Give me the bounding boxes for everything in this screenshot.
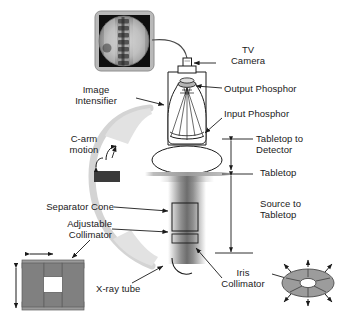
label-c-arm-motion: C-arm motion	[54, 133, 114, 155]
label-source-to-tabletop: Source to Tabletop	[260, 198, 340, 220]
diagram-graphics	[0, 0, 343, 324]
c-arm-mount-block	[94, 171, 120, 182]
tabletop-surface	[145, 172, 230, 176]
output-phosphor	[178, 78, 196, 88]
adjustable-collimator-inset	[16, 254, 84, 310]
label-tv-camera: TV Camera	[218, 44, 278, 66]
dimension-source-to-tabletop	[215, 174, 253, 253]
patient-cross-section	[152, 146, 222, 174]
iris-collimator-inset	[282, 260, 334, 306]
c-arm	[92, 108, 158, 266]
label-input-phosphor: Input Phosphor	[224, 108, 340, 119]
label-image-intensifier: Image Intensifier	[56, 84, 136, 106]
dimension-tabletop-to-detector	[222, 139, 253, 170]
monitor	[95, 11, 154, 71]
xray-beam-column	[168, 174, 206, 264]
label-separator-cone: Separator Cone	[10, 201, 114, 212]
label-tabletop: Tabletop	[260, 167, 340, 178]
label-adjustable-collimator: Adjustable Collimator	[18, 218, 112, 240]
label-iris-collimator: Iris Collimator	[212, 267, 274, 289]
monitor-cable	[152, 40, 187, 58]
label-tabletop-to-detector: Tabletop to Detector	[256, 133, 342, 155]
diagram-canvas: TV Camera Output Phosphor Input Phosphor…	[0, 0, 343, 324]
image-intensifier	[168, 66, 206, 145]
label-xray-tube: X-ray tube	[96, 283, 166, 294]
label-output-phosphor: Output Phosphor	[224, 83, 340, 94]
